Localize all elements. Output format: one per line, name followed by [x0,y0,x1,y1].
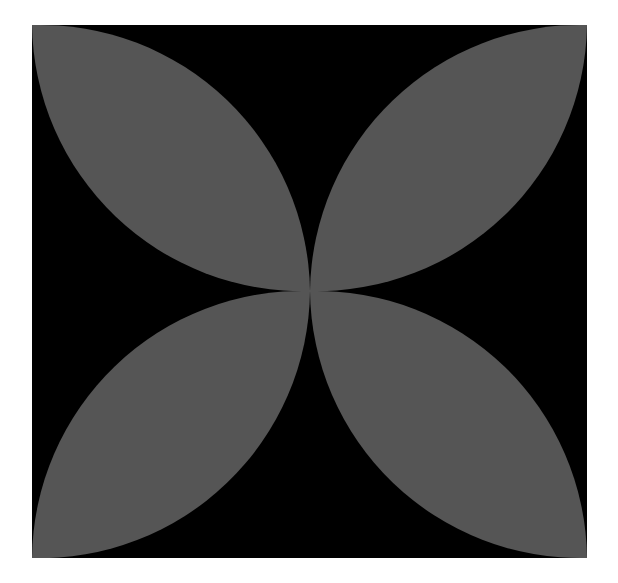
petal-diagram [0,0,618,583]
